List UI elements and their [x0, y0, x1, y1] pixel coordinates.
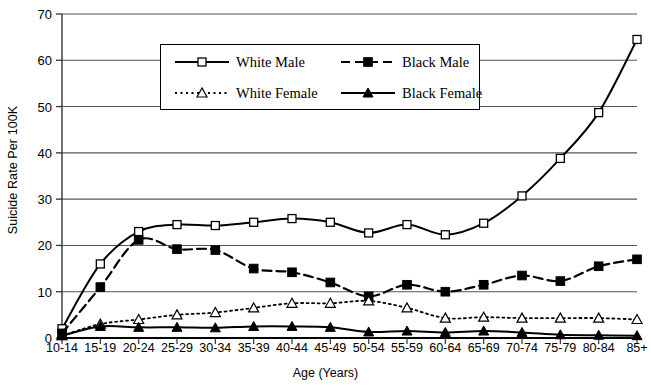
- x-axis-tick-label: 35-39: [238, 341, 270, 355]
- data-point-marker: [403, 221, 411, 229]
- data-point-marker: [595, 109, 603, 117]
- legend-label: White Female: [231, 85, 318, 102]
- legend-swatch-open-triangle-icon: [173, 85, 231, 101]
- data-point-marker: [556, 154, 564, 162]
- legend-item-black-male[interactable]: Black Male: [339, 52, 469, 72]
- x-axis-tick-label: 30-34: [199, 341, 231, 355]
- data-point-marker: [480, 219, 488, 227]
- data-point-marker: [134, 236, 143, 245]
- data-point-marker: [403, 280, 412, 289]
- legend-swatch-open-square-icon: [173, 54, 231, 70]
- data-point-marker: [250, 218, 258, 226]
- legend-label: Black Male: [397, 54, 469, 71]
- x-axis-tick-label: 70-74: [506, 341, 538, 355]
- x-axis-tick-label: 10-14: [46, 341, 78, 355]
- data-point-marker: [211, 246, 220, 255]
- x-axis-tick-label: 45-49: [314, 341, 346, 355]
- suicide-rate-line-chart: Suicide Rate Per 100K 010203040506070 Wh…: [0, 0, 651, 387]
- x-axis-tick-label: 50-54: [353, 341, 385, 355]
- data-point-marker: [518, 192, 526, 200]
- data-point-marker: [556, 277, 565, 286]
- legend-item-white-female[interactable]: White Female: [173, 83, 318, 103]
- series-black-male: [58, 236, 642, 338]
- x-axis-tick-label: 15-19: [84, 341, 116, 355]
- data-point-marker: [326, 218, 334, 226]
- x-axis-tick-label: 65-69: [468, 341, 500, 355]
- data-point-marker: [288, 215, 296, 223]
- data-point-marker: [594, 262, 603, 271]
- data-point-marker: [173, 245, 182, 254]
- x-axis-tick-label: 55-59: [391, 341, 423, 355]
- legend-item-black-female[interactable]: Black Female: [339, 83, 482, 103]
- series-white-female: [57, 296, 642, 340]
- data-point-marker: [288, 268, 297, 277]
- data-point-marker: [365, 229, 373, 237]
- x-axis-tick-label: 85+: [626, 341, 647, 355]
- data-point-marker: [173, 221, 181, 229]
- data-point-marker: [633, 35, 641, 43]
- data-point-marker: [479, 280, 488, 289]
- data-point-marker: [96, 260, 104, 268]
- data-point-marker: [633, 255, 642, 264]
- data-point-marker: [364, 58, 373, 67]
- legend-label: Black Female: [397, 85, 482, 102]
- data-point-marker: [402, 303, 412, 312]
- legend-item-white-male[interactable]: White Male: [173, 52, 305, 72]
- x-axis-tick-label: 25-29: [161, 341, 193, 355]
- x-axis-title: Age (Years): [0, 366, 651, 380]
- data-point-marker: [249, 264, 258, 273]
- series-line: [62, 326, 637, 336]
- x-axis-tick-label: 20-24: [123, 341, 155, 355]
- x-axis-tick-label: 75-79: [544, 341, 576, 355]
- chart-legend: White MaleBlack MaleWhite FemaleBlack Fe…: [160, 44, 480, 110]
- data-point-marker: [326, 278, 335, 287]
- data-point-marker: [441, 231, 449, 239]
- x-axis-tick-label: 40-44: [276, 341, 308, 355]
- data-point-marker: [198, 58, 206, 66]
- data-point-marker: [441, 287, 450, 296]
- data-point-marker: [96, 283, 105, 292]
- data-point-marker: [518, 271, 527, 280]
- x-axis-tick-labels: 10-1415-1920-2425-2930-3435-3940-4445-49…: [0, 341, 651, 363]
- legend-label: White Male: [231, 54, 305, 71]
- x-axis-tick-label: 80-84: [583, 341, 615, 355]
- data-point-marker: [211, 222, 219, 230]
- x-axis-tick-label: 60-64: [429, 341, 461, 355]
- legend-swatch-filled-square-icon: [339, 54, 397, 70]
- legend-swatch-filled-triangle-icon: [339, 85, 397, 101]
- data-point-marker: [135, 228, 143, 236]
- data-point-marker: [632, 314, 642, 323]
